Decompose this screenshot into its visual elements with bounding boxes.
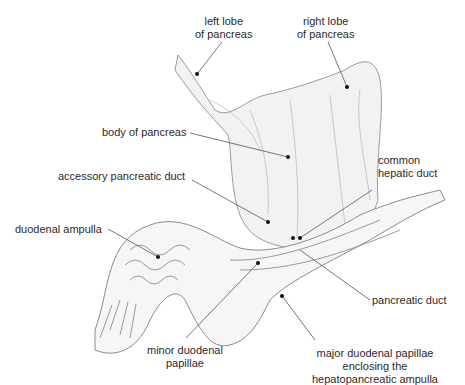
label-line: right lobe (297, 15, 354, 28)
label-line: pancreatic duct (372, 294, 447, 307)
label-line: duodenal ampulla (15, 223, 102, 236)
anatomy-diagram: left lobe of pancreas right lobe of panc… (0, 0, 465, 385)
label-line: papillae (147, 357, 223, 370)
label-line: body of pancreas (102, 126, 186, 139)
label-minor-papillae: minor duodenal papillae (147, 344, 223, 370)
label-line: of pancreas (297, 28, 354, 41)
label-common-hepatic-duct: common hepatic duct (378, 154, 437, 180)
label-body: body of pancreas (102, 126, 186, 139)
label-line: hepatopancreatic ampulla (312, 373, 438, 385)
pancreas-illustration (0, 0, 465, 385)
label-right-lobe: right lobe of pancreas (297, 15, 354, 41)
label-line: common (378, 154, 437, 167)
label-line: major duodenal papillae (312, 347, 438, 360)
label-accessory-duct: accessory pancreatic duct (58, 170, 185, 183)
label-line: left lobe (195, 15, 252, 28)
label-line: accessory pancreatic duct (58, 170, 185, 183)
label-duodenal-ampulla: duodenal ampulla (15, 223, 102, 236)
label-pancreatic-duct: pancreatic duct (372, 294, 447, 307)
label-left-lobe: left lobe of pancreas (195, 15, 252, 41)
label-line: hepatic duct (378, 167, 437, 180)
label-line: minor duodenal (147, 344, 223, 357)
label-line: of pancreas (195, 28, 252, 41)
label-line: enclosing the (312, 360, 438, 373)
label-major-papillae: major duodenal papillae enclosing the he… (312, 347, 438, 385)
